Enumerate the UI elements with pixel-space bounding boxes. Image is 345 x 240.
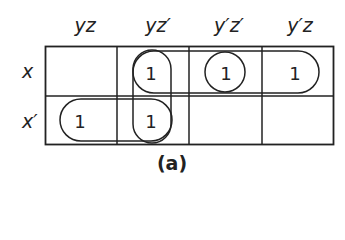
cell-x-y-prime-z: 1 (289, 63, 300, 84)
cell-x-y-prime-z-prime: 1 (220, 63, 231, 84)
cell-x-prime-yz: 1 (74, 111, 85, 132)
figure-caption: (a) (157, 152, 187, 174)
cell-x-prime-yz-prime: 1 (145, 111, 156, 132)
cell-x-yz-prime: 1 (145, 63, 156, 84)
